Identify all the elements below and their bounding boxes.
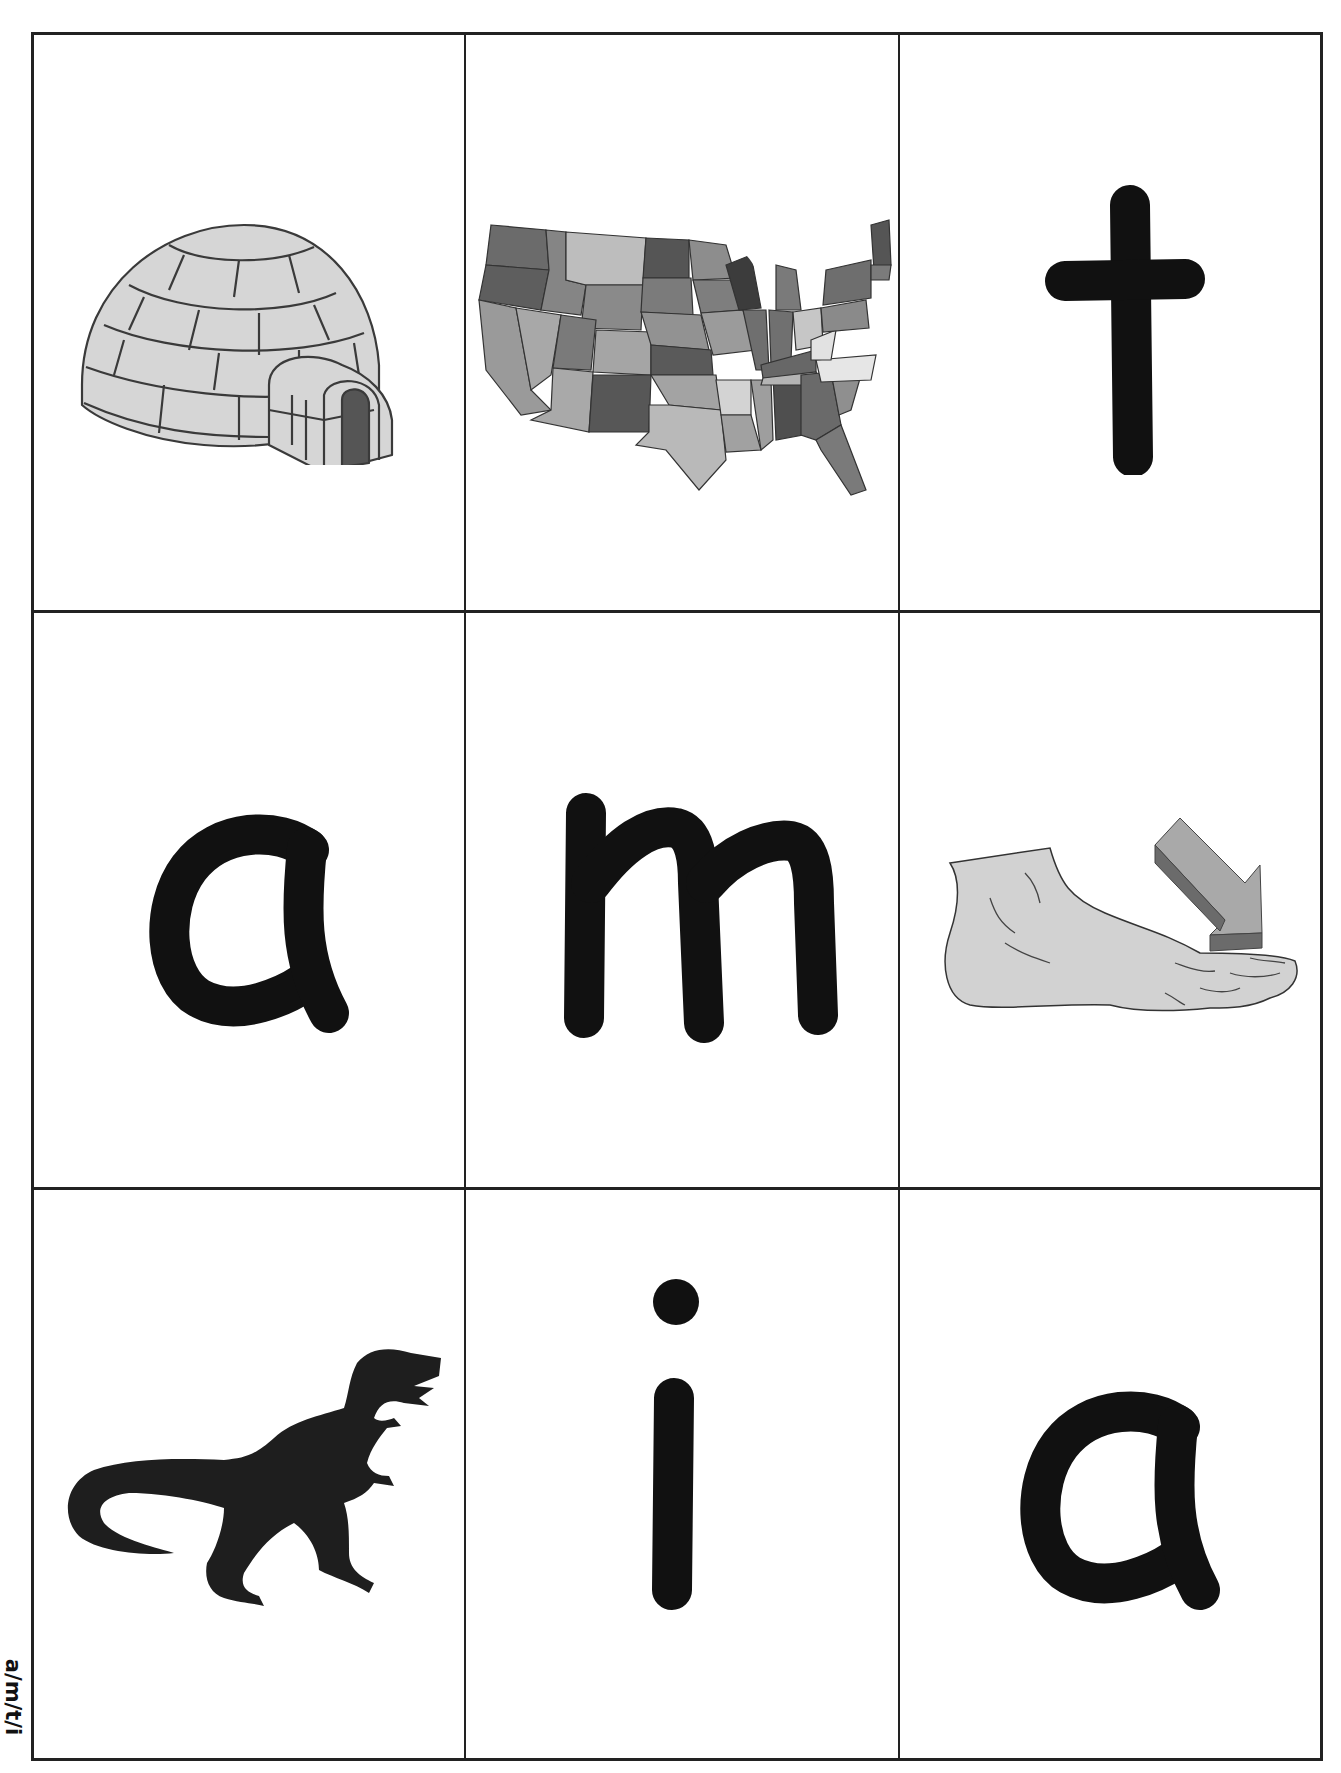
card-letter-t: t (900, 35, 1320, 613)
letter-t-glyph (1035, 185, 1215, 475)
letter-a-glyph (129, 798, 369, 1038)
card-letter-m: m (466, 613, 900, 1190)
side-label-text: a/m/t/i (1, 1659, 25, 1735)
dinosaur-icon (49, 1308, 454, 1628)
letter-i-glyph (616, 1250, 736, 1730)
worksheet-side-label: a/m/t/i (2, 1622, 24, 1772)
foot-toes-icon (940, 793, 1320, 1023)
card-usa-map (466, 35, 900, 613)
card-letter-i: i (466, 1190, 900, 1758)
card-foot-toes (900, 613, 1320, 1190)
usa-map-icon (471, 210, 896, 500)
letter-m-glyph (556, 783, 846, 1043)
igloo-icon (74, 205, 434, 465)
card-igloo (34, 35, 466, 613)
flashcard-grid: t a m (31, 32, 1323, 1761)
card-letter-a-2: a (900, 1190, 1320, 1758)
letter-a-glyph (1000, 1375, 1240, 1615)
card-letter-a: a (34, 613, 466, 1190)
card-dinosaur (34, 1190, 466, 1758)
